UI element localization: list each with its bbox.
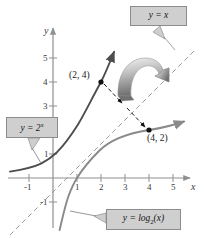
y-tick-label-3: 3 — [43, 102, 48, 111]
y-tick-label-1: 1 — [44, 150, 49, 159]
x-axis-name: x — [191, 182, 195, 192]
point-label-2-4: (2, 4) — [69, 71, 90, 81]
x-axis — [8, 174, 190, 182]
math-graph-figure: -1 1 2 3 4 5 -1 1 3 4 5 y x (2, 4) (4, 2… — [0, 0, 204, 238]
callout-exponential: y = 2x — [6, 117, 58, 138]
data-point-4-2 — [146, 127, 151, 132]
y-tick-label-4: 4 — [43, 78, 48, 87]
x-tick-label-5: 5 — [171, 183, 176, 192]
callout-y-equals-x: y = x — [130, 6, 187, 26]
callout-leader-logarithmic — [70, 211, 106, 223]
y-tick-label-5: 5 — [43, 54, 48, 63]
y-axis-name: y — [44, 26, 48, 36]
callout-exp-base: y = 2 — [20, 123, 40, 133]
y-tick-label--1: -1 — [40, 198, 48, 207]
point-label-4-2: (4, 2) — [147, 134, 168, 144]
x-tick-label-1: 1 — [75, 183, 80, 192]
callout-logarithmic: y = log2(x) — [106, 209, 181, 230]
x-tick-label-4: 4 — [147, 183, 152, 192]
callout-exp-exponent: x — [41, 121, 44, 128]
x-tick-label-2: 2 — [99, 183, 104, 192]
callout-leader-y-equals-x — [153, 26, 175, 50]
exponential-curve — [10, 52, 114, 172]
callout-log-arg: (x) — [154, 213, 165, 223]
curved-reflection-arrow-icon — [118, 58, 169, 101]
x-tick-label-3: 3 — [123, 183, 128, 192]
x-tick-label--1: -1 — [24, 183, 32, 192]
callout-yx-text: y = x — [149, 10, 169, 20]
callout-log-prefix: y = log — [123, 213, 151, 223]
data-point-2-4 — [98, 79, 103, 84]
callout-leader-exponential — [28, 138, 41, 163]
